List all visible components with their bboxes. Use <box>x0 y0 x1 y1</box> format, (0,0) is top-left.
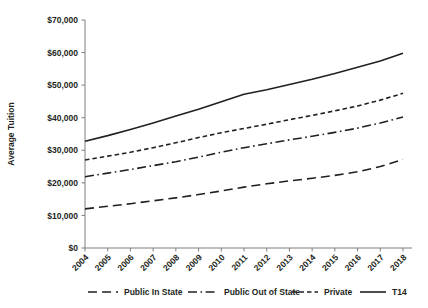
y-tick-label: $30,000 <box>47 145 78 155</box>
y-tick-label: $70,000 <box>47 15 78 25</box>
legend-label: Public Out of State <box>224 287 300 297</box>
y-axis-title-text: Average Tuition <box>6 102 16 165</box>
y-tick-label: $40,000 <box>47 113 78 123</box>
legend-label: Public In State <box>124 287 183 297</box>
y-tick-label: $20,000 <box>47 178 78 188</box>
y-tick-label: $10,000 <box>47 211 78 221</box>
tuition-line-chart: $0$10,000$20,000$30,000$40,000$50,000$60… <box>0 0 428 308</box>
legend-label: Private <box>324 287 353 297</box>
y-tick-label: $50,000 <box>47 80 78 90</box>
legend-label: T14 <box>392 287 407 297</box>
y-tick-label: $0 <box>69 243 79 253</box>
chart-canvas: $0$10,000$20,000$30,000$40,000$50,000$60… <box>0 0 428 308</box>
y-axis-title: Average Tuition <box>6 102 16 165</box>
y-tick-label: $60,000 <box>47 48 78 58</box>
